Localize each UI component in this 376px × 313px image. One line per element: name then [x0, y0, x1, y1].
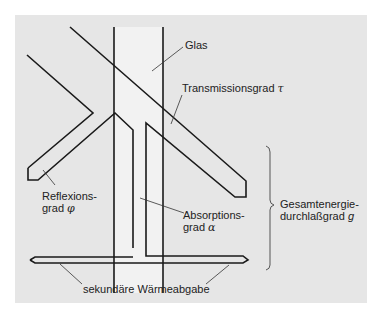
absorption-grad: grad [183, 221, 205, 233]
total-text-line1: Gesamtenergie- [280, 198, 359, 210]
label-reflection: Reflexions- grad φ [42, 190, 97, 215]
diagram-background [15, 15, 367, 303]
label-total-energy: Gesamtenergie- durchlaßgrad g [280, 198, 359, 222]
total-grad: durchlaßgrad [280, 210, 345, 222]
phi-symbol: φ [67, 202, 75, 215]
label-secondary-heat: sekundäre Wärmeabgabe [83, 283, 210, 295]
transmission-text: Transmissionsgrad [182, 82, 275, 94]
alpha-symbol: α [208, 221, 215, 234]
absorption-text-line1: Absorptions- [183, 209, 245, 221]
label-absorption: Absorptions- grad α [183, 209, 245, 234]
tau-symbol: τ [278, 82, 284, 95]
absorption-text-line2: grad α [183, 221, 245, 234]
total-text-line2: durchlaßgrad g [280, 210, 359, 222]
g-symbol: g [348, 210, 354, 222]
reflection-text-line2: grad φ [42, 202, 97, 215]
reflection-grad: grad [42, 202, 64, 214]
glass-pane [114, 27, 163, 293]
reflection-text-line1: Reflexions- [42, 190, 97, 202]
label-glas: Glas [185, 39, 208, 51]
label-transmission: Transmissionsgrad τ [182, 82, 284, 95]
